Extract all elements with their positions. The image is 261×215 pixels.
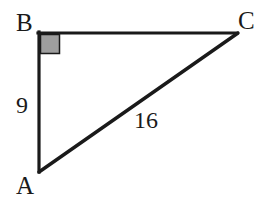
vertex-label-b: B xyxy=(16,10,33,35)
vertex-label-c: C xyxy=(238,8,255,33)
vertex-label-a: A xyxy=(16,173,34,198)
side-length-label-ac: 16 xyxy=(134,108,158,132)
side-length-label-ab: 9 xyxy=(16,93,28,117)
side-ac-line xyxy=(39,33,238,172)
right-angle-marker xyxy=(41,35,60,54)
geometry-figure: B C A 9 16 xyxy=(0,0,261,215)
triangle-drawing xyxy=(0,0,261,215)
